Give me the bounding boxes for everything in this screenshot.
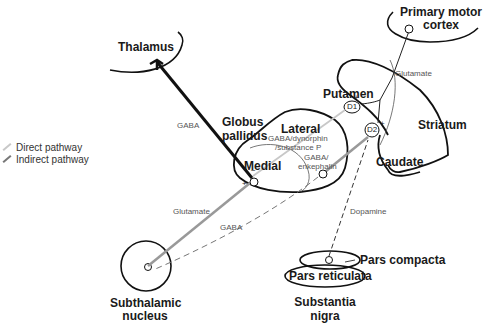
label-pars-compacta: Pars compacta	[360, 254, 445, 267]
label-subthalamic-2: nucleus	[110, 310, 180, 323]
legend-indirect-label: Indirect pathway	[16, 154, 89, 165]
sign-d1-plus: +	[354, 94, 359, 103]
label-d2: D2	[365, 126, 379, 135]
label-gaba-dynorphin-2: /substance P	[275, 144, 321, 153]
legend: Direct pathway Indirect pathway	[0, 141, 89, 165]
label-glutamate-cortex: Glutamate	[395, 70, 432, 79]
label-dopamine: Dopamine	[350, 208, 386, 217]
label-substantia: Substantia	[290, 296, 360, 309]
legend-direct: Direct pathway	[0, 141, 89, 153]
sign-medial-plus: +	[242, 180, 247, 189]
label-gaba-thalamus: GABA	[177, 122, 199, 131]
label-thalamus: Thalamus	[118, 41, 174, 54]
label-medial: Medial	[244, 160, 281, 173]
label-pars-reticulata: Pars reticulata	[289, 270, 372, 283]
label-d1: D1	[345, 103, 359, 112]
label-nigra: nigra	[290, 310, 360, 323]
label-cortex-2: cortex	[399, 19, 483, 32]
label-striatum: Striatum	[418, 119, 467, 132]
direct-pathway-swatch-icon	[0, 142, 14, 152]
label-glutamate-stn: Glutamate	[173, 208, 210, 217]
label-caudate: Caudate	[376, 156, 423, 169]
dopamine-path	[329, 140, 368, 256]
legend-direct-label: Direct pathway	[16, 142, 82, 153]
legend-indirect: Indirect pathway	[0, 153, 89, 165]
compacta-neuron	[326, 257, 333, 264]
label-pallidus: pallidus	[222, 130, 267, 143]
medial-neuron	[250, 178, 258, 186]
sign-medial-minus: −	[251, 167, 256, 176]
label-gaba-enkephalin-2: enkephalin	[298, 163, 337, 172]
cortical-glutamate-path	[380, 31, 409, 100]
label-globus: Globus	[222, 116, 263, 129]
label-putamen: Putamen	[323, 88, 374, 101]
label-gaba-stn: GABA	[220, 224, 242, 233]
sign-d2-plus: +	[380, 120, 385, 129]
indirect-pathway-swatch-icon	[0, 154, 14, 164]
